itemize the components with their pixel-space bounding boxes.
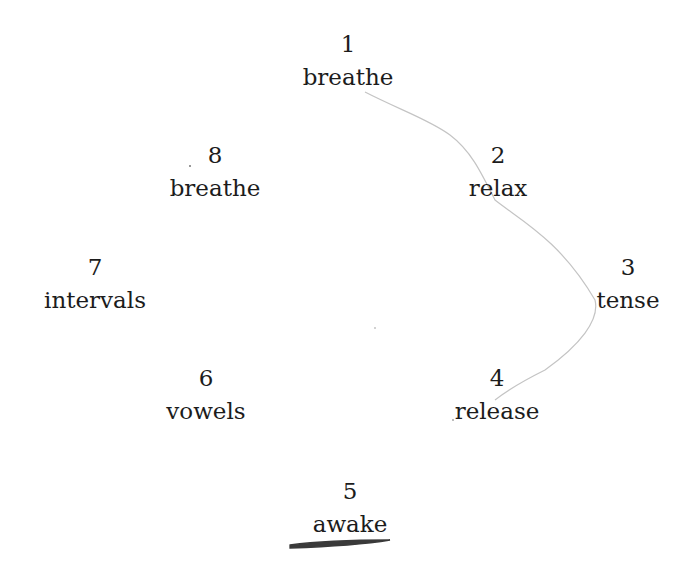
pencil-dot — [374, 327, 376, 329]
node-6-label: vowels — [166, 400, 245, 423]
node-1-number: 1 — [303, 33, 394, 56]
node-5: 5 awake — [313, 480, 388, 536]
node-8: 8 breathe — [170, 144, 261, 200]
pencil-dot — [452, 419, 454, 421]
awake-underline — [290, 540, 390, 548]
node-4: 4 release — [455, 367, 540, 423]
node-7-number: 7 — [44, 256, 146, 279]
node-5-number: 5 — [313, 480, 388, 503]
node-7: 7 intervals — [44, 256, 146, 312]
node-8-label: breathe — [170, 177, 261, 200]
node-4-number: 4 — [455, 367, 540, 390]
node-1: 1 breathe — [303, 33, 394, 89]
pencil-connector-line — [365, 92, 596, 400]
node-1-label: breathe — [303, 66, 394, 89]
node-6: 6 vowels — [166, 367, 245, 423]
node-2-label: relax — [469, 177, 528, 200]
node-6-number: 6 — [166, 367, 245, 390]
node-3-number: 3 — [596, 256, 659, 279]
node-2: 2 relax — [469, 144, 528, 200]
node-3-label: tense — [596, 289, 659, 312]
node-8-number: 8 — [170, 144, 261, 167]
node-2-number: 2 — [469, 144, 528, 167]
node-4-label: release — [455, 400, 540, 423]
node-3: 3 tense — [596, 256, 659, 312]
node-5-label: awake — [313, 513, 388, 536]
node-7-label: intervals — [44, 289, 146, 312]
